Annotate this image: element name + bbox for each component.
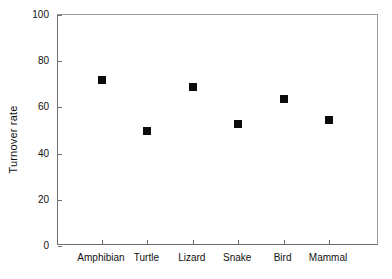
data-point: [325, 116, 333, 124]
data-point: [280, 95, 288, 103]
y-axis-title: Turnover rate: [0, 0, 26, 279]
x-axis-tick: [147, 240, 148, 244]
y-axis-tick: [58, 246, 62, 247]
y-axis-tick: [58, 200, 62, 201]
data-point: [143, 127, 151, 135]
x-axis-tick-label: Snake: [223, 252, 251, 263]
y-axis-tick: [58, 61, 62, 62]
x-axis-tick-label: Lizard: [178, 252, 205, 263]
plot-inner: [58, 15, 377, 244]
data-point: [98, 76, 106, 84]
y-axis-tick-label: 60: [9, 101, 49, 112]
x-axis-tick: [329, 240, 330, 244]
y-axis-tick-label: 100: [9, 9, 49, 20]
x-axis-tick-label: Mammal: [309, 252, 347, 263]
x-axis-tick: [284, 240, 285, 244]
x-axis-tick: [102, 240, 103, 244]
y-axis-tick: [58, 15, 62, 16]
chart-figure: Turnover rate 020406080100 AmphibianTurt…: [0, 0, 392, 279]
data-point: [189, 83, 197, 91]
x-axis-tick: [238, 240, 239, 244]
data-point: [234, 120, 242, 128]
y-axis-tick-label: 40: [9, 147, 49, 158]
x-axis-tick: [193, 240, 194, 244]
x-axis-tick-label: Amphibian: [77, 252, 124, 263]
y-axis-tick: [58, 107, 62, 108]
y-axis-tick: [58, 154, 62, 155]
y-axis-tick-label: 0: [9, 240, 49, 251]
plot-area: [57, 14, 378, 245]
x-axis-tick-label: Bird: [274, 252, 292, 263]
y-axis-tick-label: 20: [9, 193, 49, 204]
y-axis-tick-label: 80: [9, 55, 49, 66]
x-axis-tick-label: Turtle: [134, 252, 159, 263]
